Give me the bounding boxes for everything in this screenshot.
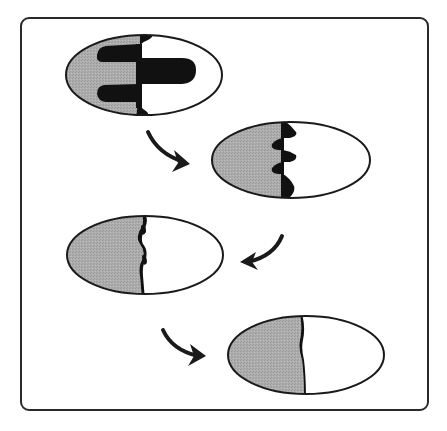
stage-1-ellipse xyxy=(60,30,230,120)
arrow-2-to-3-icon xyxy=(240,236,282,270)
stage-4-ellipse xyxy=(220,310,395,400)
arrow-1-to-2-icon xyxy=(148,132,190,172)
stage-2-ellipse xyxy=(205,115,380,205)
stage-3-ellipse xyxy=(60,210,230,300)
arrow-3-to-4-icon xyxy=(163,330,206,366)
stage-1-gray-half xyxy=(60,30,140,120)
diagram-stage xyxy=(0,0,447,431)
diagram-canvas xyxy=(0,0,447,431)
